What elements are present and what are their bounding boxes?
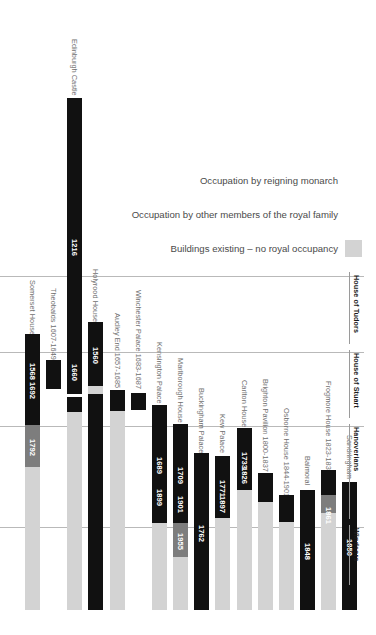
bar-label: Edinburgh Castle: [67, 36, 82, 98]
bar-segment-monarch: 1762: [194, 453, 209, 610]
bar-segment-none: [258, 502, 273, 610]
bar-segment-monarch: [67, 397, 82, 412]
legend-label: Occupation by other members of the royal…: [132, 209, 338, 220]
bar-segment-none: [152, 523, 167, 610]
bar-carlton-house[interactable]: Carlton House17331826: [237, 0, 252, 635]
bar-segment-none: [237, 490, 252, 610]
legend-swatch-monarch: [345, 172, 362, 189]
era-label-house-of-tudors: House of Tudors: [352, 275, 361, 333]
segment-year-label: 1955: [173, 523, 188, 557]
bar-label: Kensington Palace: [152, 340, 167, 405]
segment-year-label: 1568 1692: [25, 334, 40, 425]
bar-segment-monarch: 1216: [67, 98, 82, 394]
legend-item-monarch[interactable]: Occupation by reigning monarch: [132, 172, 362, 189]
bar-label: Kew Palace: [215, 411, 230, 456]
bar-buckingham-palace[interactable]: Buckingham Palace1762: [194, 0, 209, 635]
bar-balmoral[interactable]: Balmoral1848: [300, 0, 315, 635]
legend-label: Occupation by reigning monarch: [200, 175, 338, 186]
legend-swatch-family: [345, 206, 362, 223]
chart-legend: Occupation by reigning monarchOccupation…: [132, 172, 362, 274]
bar-label: Frogmore House 1823-1837: [321, 385, 336, 470]
bar-segment-none: [110, 411, 125, 610]
bar-label: Balmoral: [300, 452, 315, 490]
segment-end-year-label: 1660: [67, 355, 82, 389]
era-divider-tick: [349, 350, 350, 418]
bar-segment-monarch: 1568 1692: [25, 334, 40, 425]
segment-end-year-label: 1897: [215, 487, 230, 521]
bar-label: Carlton House: [237, 380, 252, 428]
bar-segment-none: [279, 522, 294, 610]
segment-year-label: 1560: [88, 322, 103, 386]
bar-audley-end[interactable]: Audley End 1657-1685: [110, 0, 125, 635]
bar-segment-none: [25, 467, 40, 610]
segment-end-year-label: 1826: [237, 458, 252, 492]
bar-segment-monarch: [258, 473, 273, 502]
bar-label: Brighton Pavilion 1800-1837: [258, 378, 273, 473]
legend-item-family[interactable]: Occupation by other members of the royal…: [132, 206, 362, 223]
bar-kensington-palace[interactable]: Kensington Palace16891899: [152, 0, 167, 635]
bar-segment-monarch: [131, 393, 146, 410]
bar-holyrood-house[interactable]: Holyrood House1560: [88, 0, 103, 635]
bar-segment-none: [215, 518, 230, 610]
bar-marlborough-house[interactable]: Marlborough House170919551901: [173, 0, 188, 635]
bar-label: Winchester Palace 1683-1687: [131, 290, 146, 390]
legend-swatch-none: [345, 240, 362, 257]
bar-theobalds[interactable]: Theobalds 1607-1649: [46, 0, 61, 635]
bar-label: Osborne House 1844-1901: [279, 410, 294, 495]
bar-segment-none: [173, 557, 188, 610]
bar-label: Somerset House: [25, 282, 40, 334]
era-divider-tick: [349, 525, 350, 585]
segment-end-year-label: 1899: [152, 480, 167, 514]
bar-label: Holyrood House: [88, 268, 103, 322]
bar-osborne-house[interactable]: Osborne House 1844-1901: [279, 0, 294, 635]
bar-segment-family: 1792: [25, 425, 40, 467]
royal-residences-timeline-chart: Somerset House1568 16921792Theobalds 160…: [0, 0, 376, 635]
bar-segment-monarch: 1848: [300, 490, 315, 610]
era-divider-tick: [349, 272, 350, 344]
bar-label: Marlborough House: [173, 356, 188, 424]
bar-segment-none: [67, 412, 82, 610]
bar-somerset-house[interactable]: Somerset House1568 16921792: [25, 0, 40, 635]
segment-end-year-label: 1861: [321, 498, 336, 532]
bar-segment-none: [88, 386, 103, 394]
bar-edinburgh-castle[interactable]: Edinburgh Castle12161660: [67, 0, 82, 635]
legend-label: Buildings existing – no royal occupancy: [171, 243, 338, 254]
segment-year-label: 1792: [25, 425, 40, 467]
bar-frogmore-house[interactable]: Frogmore House 1823-18371861: [321, 0, 336, 635]
bar-label: Audley End 1657-1685: [110, 312, 125, 390]
bar-label: Buckingham Palace: [194, 388, 209, 453]
segment-year-label: 1848: [300, 490, 315, 610]
bar-segment-monarch: [279, 495, 294, 522]
era-divider-tick: [349, 424, 350, 519]
segment-end-year-label: 1901: [173, 487, 188, 521]
bar-segment-monarch: [321, 470, 336, 495]
legend-item-none[interactable]: Buildings existing – no royal occupancy: [132, 240, 362, 257]
bar-segment-monarch: [46, 360, 61, 389]
segment-year-label: 1216: [67, 98, 82, 394]
bar-segment-monarch: [88, 394, 103, 610]
bar-winchester-palace[interactable]: Winchester Palace 1683-1687: [131, 0, 146, 635]
bar-segment-monarch: 1560: [88, 322, 103, 386]
bar-label: Theobalds 1607-1649: [46, 287, 61, 360]
bar-kew-palace[interactable]: Kew Palace17711897: [215, 0, 230, 635]
segment-year-label: 1762: [194, 453, 209, 610]
era-label-house-of-stuart: House of Stuart: [352, 353, 361, 408]
bar-segment-monarch: [110, 390, 125, 411]
bar-segment-family: 1955: [173, 523, 188, 557]
era-label-hanoverians: Hanoverians: [352, 427, 361, 471]
era-label-windsors: Windsors: [352, 528, 361, 561]
bar-brighton-pavilion[interactable]: Brighton Pavilion 1800-1837: [258, 0, 273, 635]
